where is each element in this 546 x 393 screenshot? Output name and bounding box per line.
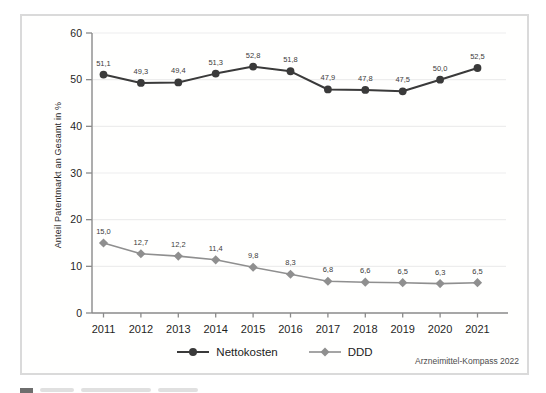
svg-text:2021: 2021 (465, 323, 489, 335)
svg-text:9,8: 9,8 (248, 251, 258, 260)
caption-smudge (40, 388, 74, 392)
source-note: Arzneimittel-Kompass 2022 (415, 356, 519, 366)
svg-text:6,5: 6,5 (397, 267, 407, 276)
svg-text:2015: 2015 (241, 323, 265, 335)
svg-text:49,3: 49,3 (134, 67, 149, 76)
line-chart: 0102030405060 20112012201320142015201620… (0, 0, 546, 393)
svg-text:2019: 2019 (390, 323, 414, 335)
svg-text:2014: 2014 (203, 323, 227, 335)
svg-text:12,7: 12,7 (134, 238, 149, 247)
caption-smudge (158, 388, 198, 392)
figure-page: 0102030405060 20112012201320142015201620… (0, 0, 546, 393)
circle-marker-icon (176, 347, 210, 357)
legend-item-nettokosten: Nettokosten (176, 346, 277, 358)
y-axis-title-text: Anteil Patentmarkt an Gesamt in % (53, 102, 63, 249)
svg-text:12,2: 12,2 (171, 240, 186, 249)
legend-label-nettokosten: Nettokosten (216, 346, 277, 358)
svg-text:6,8: 6,8 (323, 265, 333, 274)
legend-item-ddd: DDD (308, 346, 373, 358)
y-axis-ticks (86, 33, 92, 313)
svg-text:6,3: 6,3 (435, 268, 445, 277)
x-axis-tick-labels: 2011201220132014201520162017201820192020… (92, 323, 490, 335)
diamond-marker-icon (308, 347, 342, 357)
caption-smudge (81, 388, 151, 392)
svg-text:8,3: 8,3 (285, 258, 295, 267)
svg-text:2012: 2012 (129, 323, 153, 335)
svg-text:2017: 2017 (316, 323, 340, 335)
svg-text:51,3: 51,3 (208, 58, 223, 67)
svg-text:6,6: 6,6 (360, 266, 370, 275)
svg-text:2011: 2011 (92, 323, 116, 335)
legend-label-ddd: DDD (348, 346, 373, 358)
svg-text:52,5: 52,5 (470, 52, 485, 61)
svg-text:52,8: 52,8 (246, 51, 261, 60)
caption-bullet-square (20, 388, 33, 393)
svg-text:47,9: 47,9 (321, 73, 336, 82)
y-axis-title: Anteil Patentmarkt an Gesamt in % (40, 55, 76, 295)
svg-text:15,0: 15,0 (96, 227, 111, 236)
svg-text:2013: 2013 (166, 323, 190, 335)
svg-text:50,0: 50,0 (433, 64, 448, 73)
svg-text:51,8: 51,8 (283, 55, 298, 64)
svg-text:2016: 2016 (278, 323, 302, 335)
svg-text:60: 60 (70, 27, 82, 39)
svg-text:11,4: 11,4 (209, 244, 223, 253)
svg-text:51,1: 51,1 (96, 59, 111, 68)
svg-text:49,4: 49,4 (171, 66, 186, 75)
svg-text:2018: 2018 (353, 323, 377, 335)
svg-text:47,5: 47,5 (395, 75, 410, 84)
svg-text:2020: 2020 (428, 323, 452, 335)
cropped-caption-fragment (20, 388, 280, 393)
svg-text:0: 0 (76, 307, 82, 319)
svg-text:47,8: 47,8 (358, 74, 373, 83)
svg-text:6,5: 6,5 (472, 267, 482, 276)
series-lines (104, 67, 478, 284)
